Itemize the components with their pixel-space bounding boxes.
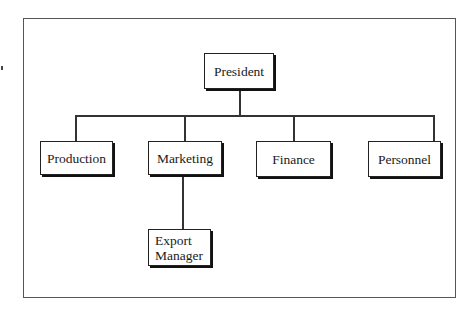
node-label: Marketing xyxy=(157,151,213,166)
marketing-drop xyxy=(184,115,186,142)
margin-mark xyxy=(1,66,3,70)
horizontal-bus xyxy=(76,115,435,117)
node-label: Export Manager xyxy=(155,233,203,263)
marketing-to-export-stem xyxy=(182,175,184,230)
node-president: President xyxy=(204,53,274,89)
node-finance: Finance xyxy=(256,141,331,177)
node-label: Production xyxy=(47,151,106,166)
node-export-manager: Export Manager xyxy=(148,229,211,266)
node-production: Production xyxy=(40,141,113,175)
personnel-drop xyxy=(433,115,435,142)
president-stem xyxy=(239,89,241,117)
node-label: Personnel xyxy=(378,152,431,167)
node-personnel: Personnel xyxy=(368,141,441,177)
finance-drop xyxy=(293,115,295,142)
node-label: President xyxy=(214,64,264,79)
node-marketing: Marketing xyxy=(148,141,222,175)
production-drop xyxy=(75,115,77,142)
node-label: Finance xyxy=(272,152,315,167)
